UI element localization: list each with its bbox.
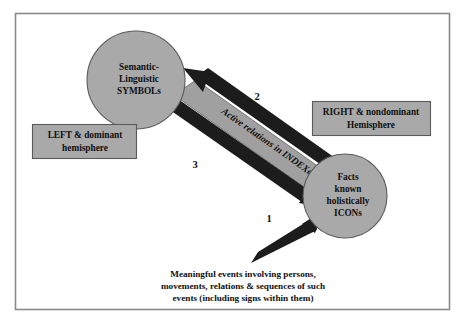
left-hemisphere-box-line-1: LEFT & dominant: [48, 130, 124, 140]
symbols-circle-line-3: SYMBOLs: [117, 86, 161, 96]
symbols-circle-line-1: Semantic-: [119, 62, 159, 72]
icons-circle-line-3: holistically: [327, 196, 370, 206]
arrow-1-number: 1: [266, 213, 271, 224]
left-hemisphere-box-line-2: hemisphere: [62, 143, 108, 153]
icons-circle-line-1: Facts: [337, 172, 359, 182]
symbols-circle-line-2: Linguistic: [119, 74, 159, 84]
diagram-frame: [16, 14, 450, 310]
caption: Meaningful events involving persons, mov…: [161, 269, 325, 303]
caption-line-1: Meaningful events involving persons,: [170, 269, 315, 279]
right-hemisphere-box: RIGHT & nondominant Hemisphere: [313, 102, 431, 136]
arrow-3-number: 3: [192, 159, 197, 170]
icons-circle-line-4: ICONs: [334, 208, 362, 218]
caption-line-3: events (including signs within them): [173, 293, 314, 303]
caption-line-2: movements, relations & sequences of such: [161, 281, 325, 291]
icons-circle-line-2: known: [335, 184, 363, 194]
icons-circle: Facts known holistically ICONs: [303, 154, 387, 238]
arrow-2-number: 2: [254, 91, 259, 102]
right-hemisphere-box-line-2: Hemisphere: [347, 120, 395, 130]
symbols-circle: Semantic- Linguistic SYMBOLs: [87, 31, 185, 129]
diagram-canvas: Active relations in INDEXes Semantic- Li…: [0, 0, 465, 329]
left-hemisphere-box: LEFT & dominant hemisphere: [33, 125, 137, 159]
right-hemisphere-box-line-1: RIGHT & nondominant: [323, 107, 420, 117]
